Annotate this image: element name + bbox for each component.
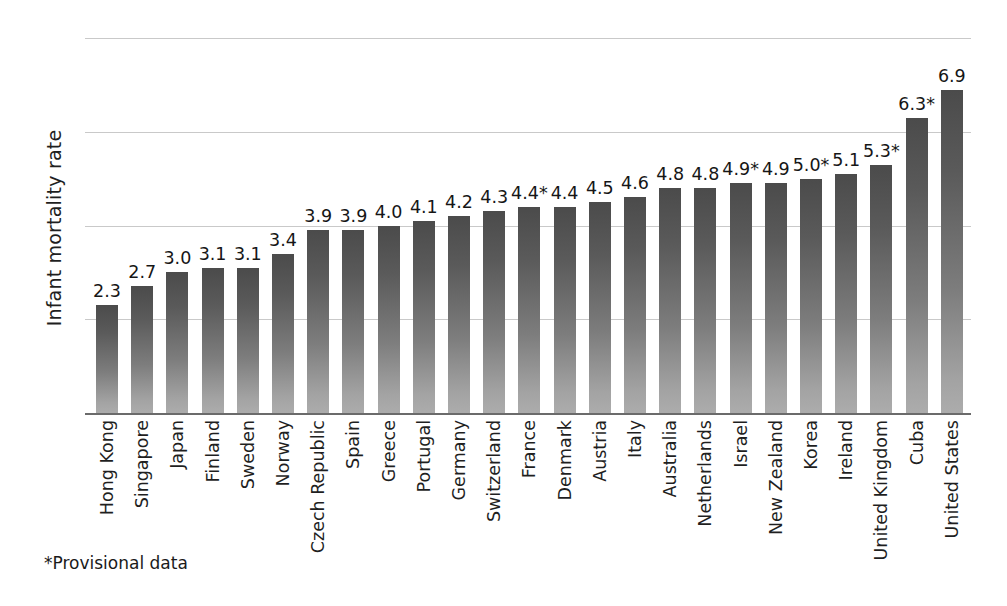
x-axis-label-text: Switzerland xyxy=(484,420,504,522)
bar[interactable] xyxy=(941,90,963,413)
x-axis-label: Netherlands xyxy=(687,416,723,566)
x-axis-label-text: Japan xyxy=(167,420,187,469)
x-axis-label-text: Portugal xyxy=(414,420,434,492)
x-axis-label: United Kingdom xyxy=(863,416,899,566)
bar-slot: 3.9 xyxy=(335,38,371,413)
bar-slot: 2.7 xyxy=(124,38,160,413)
bar-slot: 6.3* xyxy=(899,38,935,413)
bar[interactable] xyxy=(202,268,224,413)
x-axis-label-text: Singapore xyxy=(132,420,152,508)
bar-slot: 3.1 xyxy=(195,38,231,413)
bar-slot: 4.6 xyxy=(617,38,653,413)
x-axis-label-text: Ireland xyxy=(836,420,856,481)
x-axis-label-text: Spain xyxy=(343,420,363,469)
bar-slot: 4.5 xyxy=(582,38,618,413)
bar[interactable] xyxy=(624,197,646,413)
x-axis-label: United States xyxy=(934,416,970,566)
x-axis-label-text: Norway xyxy=(273,420,293,486)
bar-value-label: 6.9 xyxy=(928,66,976,86)
x-axis-label-text: Finland xyxy=(203,420,223,483)
bar[interactable] xyxy=(906,118,928,413)
bar[interactable] xyxy=(518,207,540,413)
x-axis-label-text: Czech Republic xyxy=(308,420,328,553)
bar-slot: 3.0 xyxy=(159,38,195,413)
x-axis-label-text: Israel xyxy=(731,420,751,468)
x-axis-label-text: Netherlands xyxy=(695,420,715,527)
infant-mortality-bar-chart: Infant mortality rate 02468 2.32.73.03.1… xyxy=(0,0,1007,606)
x-axis-label-text: Greece xyxy=(379,420,399,482)
bar[interactable] xyxy=(342,230,364,413)
bar-slot: 4.4 xyxy=(547,38,583,413)
x-axis-label: Czech Republic xyxy=(300,416,336,566)
bar[interactable] xyxy=(835,174,857,413)
x-axis-label: Denmark xyxy=(547,416,583,566)
x-axis-label: Japan xyxy=(159,416,195,566)
x-axis-label: Cuba xyxy=(899,416,935,566)
x-axis-label-text: Korea xyxy=(801,420,821,470)
bar[interactable] xyxy=(730,183,752,413)
bar[interactable] xyxy=(413,221,435,413)
bar[interactable] xyxy=(659,188,681,413)
footnote-provisional-data: *Provisional data xyxy=(44,553,188,573)
bar[interactable] xyxy=(448,216,470,413)
bar-slot: 4.1 xyxy=(406,38,442,413)
bar[interactable] xyxy=(694,188,716,413)
x-axis-label-text: Hong Kong xyxy=(97,420,117,515)
bar-slot: 4.8 xyxy=(652,38,688,413)
bar-slot: 4.8 xyxy=(687,38,723,413)
bar-slot: 5.0* xyxy=(793,38,829,413)
x-axis-label-text: Germany xyxy=(449,420,469,500)
bar[interactable] xyxy=(483,211,505,413)
bar[interactable] xyxy=(765,183,787,413)
x-axis-label-text: Cuba xyxy=(907,420,927,465)
x-axis-label-text: United States xyxy=(942,420,962,539)
x-axis-label: Switzerland xyxy=(476,416,512,566)
x-axis-label-text: Sweden xyxy=(238,420,258,489)
bar[interactable] xyxy=(131,286,153,413)
x-axis-label: Italy xyxy=(617,416,653,566)
bar[interactable] xyxy=(166,272,188,413)
bar[interactable] xyxy=(378,226,400,414)
x-axis-label: New Zealand xyxy=(758,416,794,566)
bar[interactable] xyxy=(307,230,329,413)
y-axis-title: Infant mortality rate xyxy=(43,78,65,378)
x-axis-category-labels: Hong KongSingaporeJapanFinlandSwedenNorw… xyxy=(85,416,971,566)
bar[interactable] xyxy=(554,207,576,413)
bar[interactable] xyxy=(870,165,892,413)
bar-slot: 2.3 xyxy=(89,38,125,413)
bar-slot: 4.9* xyxy=(723,38,759,413)
x-axis-label-text: Denmark xyxy=(555,420,575,500)
x-axis-label: Hong Kong xyxy=(89,416,125,566)
x-axis-label: Sweden xyxy=(230,416,266,566)
bar-slot: 3.1 xyxy=(230,38,266,413)
bar-slot: 5.1 xyxy=(828,38,864,413)
bar[interactable] xyxy=(237,268,259,413)
x-axis-label: Israel xyxy=(723,416,759,566)
bar-slot: 6.9 xyxy=(934,38,970,413)
x-axis-label: France xyxy=(511,416,547,566)
bar[interactable] xyxy=(96,305,118,413)
x-axis-label: Greece xyxy=(371,416,407,566)
x-axis-label: Finland xyxy=(195,416,231,566)
bar-slot: 4.2 xyxy=(441,38,477,413)
x-axis-label: Portugal xyxy=(406,416,442,566)
x-axis-label-text: United Kingdom xyxy=(871,420,891,560)
bar-slot: 4.9 xyxy=(758,38,794,413)
x-axis-label-text: Italy xyxy=(625,420,645,458)
bar-slot: 4.0 xyxy=(371,38,407,413)
x-axis-label-text: New Zealand xyxy=(766,420,786,535)
x-axis-label: Austria xyxy=(582,416,618,566)
plot-area: 02468 2.32.73.03.13.13.43.93.94.04.14.24… xyxy=(85,38,971,413)
bar[interactable] xyxy=(272,254,294,413)
x-axis-label-text: Austria xyxy=(590,420,610,482)
gridline-0 xyxy=(85,413,971,415)
bar-slot: 4.4* xyxy=(511,38,547,413)
bar[interactable] xyxy=(589,202,611,413)
bar-series: 2.32.73.03.13.13.43.93.94.04.14.24.34.4*… xyxy=(85,38,971,413)
bar-slot: 4.3 xyxy=(476,38,512,413)
x-axis-label: Germany xyxy=(441,416,477,566)
x-axis-label: Australia xyxy=(652,416,688,566)
x-axis-label: Norway xyxy=(265,416,301,566)
bar[interactable] xyxy=(800,179,822,413)
x-axis-label-text: Australia xyxy=(660,420,680,497)
